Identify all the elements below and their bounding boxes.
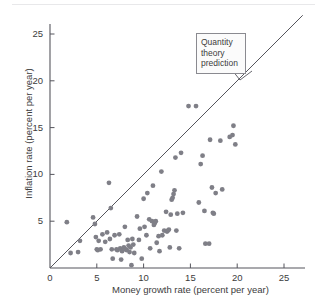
data-point (144, 233, 149, 238)
y-tick-label: 5 (23, 215, 43, 226)
data-point (202, 209, 207, 214)
data-point (93, 222, 98, 227)
data-point (207, 241, 212, 246)
data-point (130, 237, 135, 242)
data-point (129, 263, 134, 268)
data-point (186, 104, 191, 109)
data-point (220, 187, 225, 192)
data-point (213, 191, 218, 196)
data-point (164, 209, 169, 214)
data-point (110, 256, 115, 261)
data-points-group (64, 104, 237, 268)
data-point (119, 257, 124, 262)
x-tick-label: 15 (180, 272, 200, 283)
data-point (167, 245, 172, 250)
x-tick-label: 0 (40, 272, 60, 283)
annotation-line-3: prediction (201, 58, 241, 69)
data-point (117, 232, 122, 237)
chart-figure: 0510152025 510152025 Money growth rate (… (0, 0, 327, 302)
x-tick-label: 20 (227, 272, 247, 283)
data-point (137, 238, 142, 243)
data-point (148, 246, 153, 251)
data-point (109, 247, 114, 252)
data-point (177, 246, 182, 251)
data-point (131, 242, 136, 247)
data-point (154, 240, 159, 245)
data-point (211, 211, 216, 216)
data-point (108, 237, 113, 242)
data-point (166, 227, 171, 232)
data-point (103, 239, 108, 244)
data-point (68, 251, 73, 256)
data-point (139, 256, 144, 261)
data-point (141, 196, 146, 201)
annotation-line-1: Quantity (201, 37, 241, 48)
data-point (105, 230, 110, 235)
data-point (112, 233, 117, 238)
data-point (210, 185, 215, 190)
data-point (142, 224, 147, 229)
data-point (168, 212, 173, 217)
data-point (157, 249, 162, 254)
data-point (76, 250, 81, 255)
annotation-line-2: theory (201, 48, 241, 59)
data-point (78, 238, 83, 243)
data-point (208, 137, 213, 142)
data-point (231, 123, 236, 128)
data-point (230, 133, 235, 138)
data-point (108, 206, 113, 211)
data-point (145, 191, 150, 196)
x-tick-label: 10 (134, 272, 154, 283)
y-tick-label: 25 (23, 28, 43, 39)
data-point (137, 226, 142, 231)
data-point (100, 232, 105, 237)
data-point (127, 250, 132, 255)
data-point (175, 211, 180, 216)
data-point (125, 238, 130, 243)
x-axis-title: Money growth rate (percent per year) (112, 284, 269, 295)
data-point (122, 224, 127, 229)
scatter-plot-canvas (0, 0, 327, 302)
data-point (96, 238, 101, 243)
data-point (153, 219, 158, 224)
data-point (172, 188, 177, 193)
x-tick-label: 5 (87, 272, 107, 283)
data-point (173, 155, 178, 160)
data-point (233, 142, 238, 147)
data-point (218, 138, 223, 143)
data-point (196, 200, 201, 205)
x-tick-label: 25 (274, 272, 294, 283)
y-axis-title: Inflation rate (percent per year) (23, 54, 34, 214)
data-point (91, 215, 96, 220)
quantity-theory-prediction-annotation: Quantity theory prediction (196, 33, 246, 74)
data-point (107, 180, 112, 185)
data-point (194, 104, 199, 109)
data-point (159, 169, 164, 174)
data-point (135, 214, 140, 219)
data-point (181, 210, 186, 215)
data-point (64, 220, 69, 225)
data-point (160, 233, 165, 238)
data-point (151, 183, 156, 188)
data-point (132, 251, 137, 256)
data-point (179, 150, 184, 155)
data-point (200, 153, 205, 158)
data-point (98, 247, 103, 252)
data-point (198, 162, 203, 167)
data-point (174, 228, 179, 233)
